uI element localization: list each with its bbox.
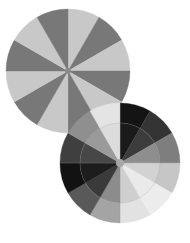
figure-root [0,0,190,243]
disc-lower-right [60,103,180,223]
disc-figure-svg [0,0,190,243]
disc-hub [116,159,124,167]
disc-hub [65,68,71,74]
